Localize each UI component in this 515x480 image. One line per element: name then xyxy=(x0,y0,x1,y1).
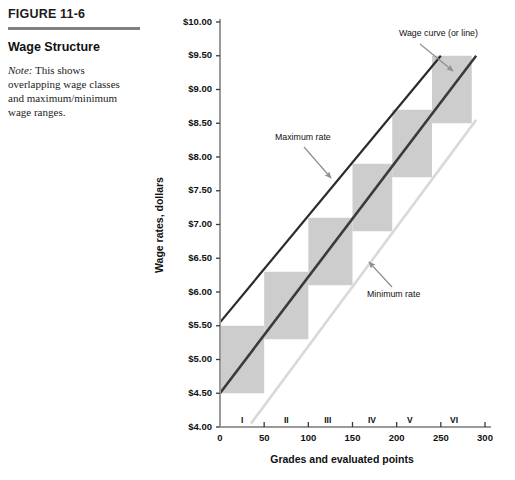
x-tick-label: 150 xyxy=(345,432,361,443)
grade-label: IV xyxy=(368,415,376,425)
y-tick-label: $9.00 xyxy=(188,83,212,94)
y-tick-label: $7.50 xyxy=(188,184,212,195)
figure-title: Wage Structure xyxy=(8,40,100,54)
x-tick-label: 100 xyxy=(300,432,316,443)
y-tick-label: $7.00 xyxy=(188,218,212,229)
y-tick-label: $4.00 xyxy=(188,421,212,432)
figure-note: Note: This shows overlapping wage classe… xyxy=(8,63,136,119)
x-tick-label: 250 xyxy=(433,432,449,443)
grade-label: V xyxy=(407,415,413,425)
x-axis-ticks: 050100150200250300 xyxy=(217,422,493,443)
y-tick-label: $6.50 xyxy=(188,252,212,263)
y-tick-label: $5.00 xyxy=(188,353,212,364)
x-tick-label: 200 xyxy=(389,432,405,443)
y-axis-ticks: $4.00$4.50$5.00$5.50$6.00$6.50$7.00$7.50… xyxy=(183,16,220,432)
annotation-label: Minimum rate xyxy=(367,289,420,299)
grade-label: II xyxy=(284,415,289,425)
chart-svg: $4.00$4.50$5.00$5.50$6.00$6.50$7.00$7.50… xyxy=(150,0,515,480)
y-tick-label: $8.50 xyxy=(188,117,212,128)
wage-structure-chart: $4.00$4.50$5.00$5.50$6.00$6.50$7.00$7.50… xyxy=(150,0,515,480)
figure-divider xyxy=(8,27,140,30)
grade-label: VI xyxy=(450,415,458,425)
x-tick-label: 300 xyxy=(477,432,493,443)
y-tick-label: $5.50 xyxy=(188,319,212,330)
series-line xyxy=(220,56,476,394)
y-axis-title: Wage rates, dollars xyxy=(153,177,165,273)
figure-number: FIGURE 11-6 xyxy=(8,7,85,21)
annotation-label: Wage curve (or line) xyxy=(399,28,478,38)
y-tick-label: $4.50 xyxy=(188,387,212,398)
grade-labels: IIIIIIIVVVI xyxy=(241,415,458,425)
figure-note-lead: Note: xyxy=(8,64,32,76)
annotation-arrow xyxy=(369,262,392,287)
x-tick-label: 0 xyxy=(217,432,222,443)
grade-label: III xyxy=(324,415,331,425)
annotation-arrow xyxy=(304,147,331,178)
figure-caption-column: FIGURE 11-6 Wage Structure Note: This sh… xyxy=(0,0,150,480)
y-tick-label: $9.50 xyxy=(188,49,212,60)
y-tick-label: $8.00 xyxy=(188,151,212,162)
wage-curve-line xyxy=(220,56,476,394)
y-tick-label: $6.00 xyxy=(188,286,212,297)
y-tick-label: $10.00 xyxy=(183,16,212,27)
annotation-label: Maximum rate xyxy=(275,132,331,142)
x-axis-title: Grades and evaluated points xyxy=(270,453,414,465)
grade-label: I xyxy=(241,415,243,425)
x-tick-label: 50 xyxy=(259,432,270,443)
